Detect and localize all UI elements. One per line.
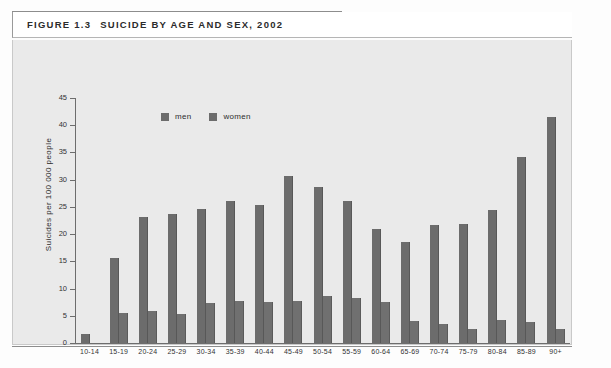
bar-group (279, 98, 308, 343)
bar-group (133, 98, 162, 343)
figure-page: FIGURE 1.3SUICIDE BY AGE AND SEX, 2002 S… (0, 0, 611, 368)
x-axis-tick-label: 45-49 (279, 348, 308, 355)
x-axis-tick-label: 15-19 (104, 348, 133, 355)
bar-women (206, 303, 215, 343)
y-axis-tick-label: 45 (41, 93, 67, 102)
bar-men (110, 258, 119, 343)
bar-group (366, 98, 395, 343)
bar-group (162, 98, 191, 343)
x-axis-tick-label: 90+ (541, 348, 570, 355)
bar-men (139, 217, 148, 343)
figure-bottom-rule (12, 346, 572, 347)
bar-women (148, 311, 157, 343)
bar-women (497, 320, 506, 343)
bar-group (512, 98, 541, 343)
x-axis-tick-label: 10-14 (75, 348, 104, 355)
bar-women (264, 302, 273, 343)
bar-men (197, 209, 206, 343)
x-axis-tick-label: 30-34 (192, 348, 221, 355)
bar-women (468, 329, 477, 343)
bar-group (104, 98, 133, 343)
bar-groups (75, 98, 570, 343)
x-axis-tick-label: 60-64 (366, 348, 395, 355)
bar-group (541, 98, 570, 343)
bar-men (284, 176, 293, 343)
x-axis-tick-label: 55-59 (337, 348, 366, 355)
bar-men (343, 201, 352, 343)
x-axis-tick-label: 85-89 (512, 348, 541, 355)
chart-panel: Suicides per 100 000 people men women 05… (12, 40, 572, 345)
bar-women (556, 329, 565, 343)
y-axis-tick-label: 5 (41, 311, 67, 320)
x-axis-tick-label: 40-44 (250, 348, 279, 355)
bar-men (81, 334, 90, 343)
x-axis-tick-labels: 10-1415-1920-2425-2930-3435-3940-4445-49… (75, 348, 570, 355)
bar-women (323, 296, 332, 343)
bar-men (488, 210, 497, 343)
y-axis-tick-label: 10 (41, 284, 67, 293)
bar-group (250, 98, 279, 343)
bar-women (439, 324, 448, 343)
bar-group (221, 98, 250, 343)
figure-title-bar: FIGURE 1.3SUICIDE BY AGE AND SEX, 2002 (12, 12, 572, 38)
bar-women (381, 302, 390, 343)
y-axis-tick (70, 343, 75, 344)
bar-group (308, 98, 337, 343)
x-axis-tick-label: 70-74 (425, 348, 454, 355)
bar-women (119, 313, 128, 343)
x-axis-tick-label: 65-69 (395, 348, 424, 355)
x-axis-tick-label: 20-24 (133, 348, 162, 355)
y-axis-tick-label: 15 (41, 256, 67, 265)
bar-women (177, 314, 186, 343)
bar-men (372, 229, 381, 343)
bar-men (459, 224, 468, 343)
figure-title: SUICIDE BY AGE AND SEX, 2002 (100, 19, 283, 30)
y-axis-tick-label: 25 (41, 202, 67, 211)
x-axis-tick-label: 50-54 (308, 348, 337, 355)
page-title: FIGURE 1.3SUICIDE BY AGE AND SEX, 2002 (13, 19, 283, 30)
x-axis-tick-label: 80-84 (483, 348, 512, 355)
bar-group (337, 98, 366, 343)
figure-number: FIGURE 1.3 (27, 19, 91, 30)
bar-women (235, 301, 244, 343)
x-axis-tick-label: 25-29 (162, 348, 191, 355)
x-axis-line (75, 343, 570, 344)
x-axis-tick-label: 35-39 (221, 348, 250, 355)
bar-men (314, 187, 323, 343)
bar-men (401, 242, 410, 343)
bar-men (226, 201, 235, 343)
bar-group (395, 98, 424, 343)
bar-men (517, 157, 526, 343)
bar-women (410, 321, 419, 343)
y-axis-tick-label: 40 (41, 120, 67, 129)
bar-group (192, 98, 221, 343)
x-axis-tick-label: 75-79 (454, 348, 483, 355)
bar-group (425, 98, 454, 343)
bar-group (75, 98, 104, 343)
y-axis-tick-label: 30 (41, 175, 67, 184)
bar-group (483, 98, 512, 343)
bar-men (547, 117, 556, 343)
bar-group (454, 98, 483, 343)
y-axis-tick-label: 35 (41, 147, 67, 156)
bar-men (430, 225, 439, 343)
y-axis-tick-label: 20 (41, 229, 67, 238)
bar-men (255, 205, 264, 343)
bar-women (293, 301, 302, 343)
bar-women (352, 298, 361, 343)
bar-women (526, 322, 535, 343)
bar-men (168, 214, 177, 343)
